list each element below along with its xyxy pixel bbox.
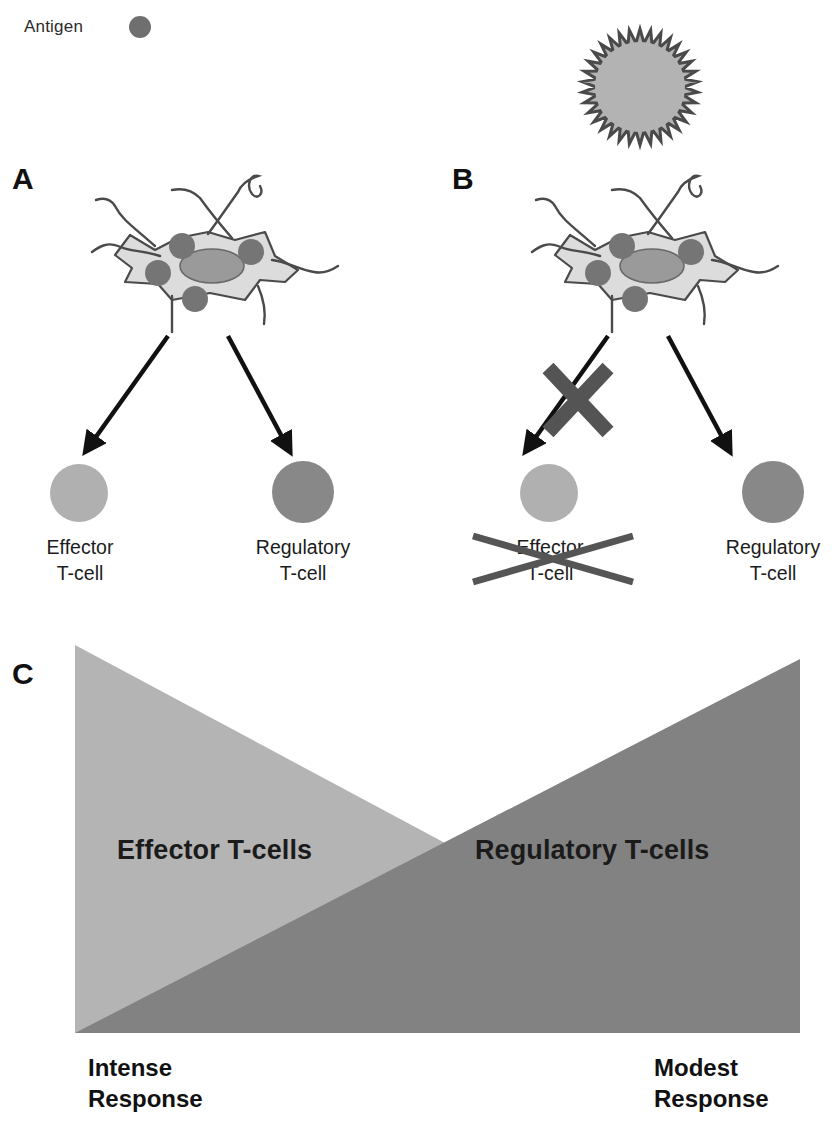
modest-response-label: Modest Response xyxy=(654,1052,769,1114)
spiky-antigen-particle xyxy=(575,22,705,156)
regulatory-label-line1: Regulatory xyxy=(223,534,383,560)
regulatory-label-line2: T-cell xyxy=(223,560,383,586)
antigen-legend-label: Antigen xyxy=(24,17,83,37)
panel-c-letter: C xyxy=(12,657,34,691)
modest-response-line1: Modest xyxy=(654,1052,769,1083)
antigen-dot-icon xyxy=(622,286,648,312)
regulatory-label-line2: T-cell xyxy=(693,560,835,586)
intense-response-line2: Response xyxy=(88,1083,203,1114)
modest-response-line2: Response xyxy=(654,1083,769,1114)
panel-a-regulatory-t-cell-label: Regulatory T-cell xyxy=(223,534,383,586)
effector-label-line1: Effector xyxy=(0,534,160,560)
arrow-down-right-icon xyxy=(228,336,288,448)
antigen-dot-icon xyxy=(145,260,171,286)
x-cross-icon xyxy=(467,528,639,590)
intense-response-line1: Intense xyxy=(88,1052,203,1083)
regulatory-t-cell-icon xyxy=(742,461,804,523)
panel-a-letter: A xyxy=(12,162,34,196)
effector-label-line2: T-cell xyxy=(0,560,160,586)
panel-b-letter: B xyxy=(452,162,474,196)
antigen-dot-icon xyxy=(169,233,195,259)
antigen-dot-icon xyxy=(678,239,704,265)
panel-a-dendritic-cell xyxy=(60,160,360,340)
panel-b-effector-t-cell xyxy=(520,464,578,522)
panel-b-dendritic-cell xyxy=(500,160,800,340)
effector-t-cell-icon xyxy=(50,464,108,522)
panel-b-effector-label-block xyxy=(467,528,639,594)
panel-b-regulatory-t-cell xyxy=(742,461,804,523)
regulatory-t-cells-label: Regulatory T-cells xyxy=(475,835,709,866)
antigen-dot-icon xyxy=(585,260,611,286)
panel-a-regulatory-t-cell xyxy=(272,461,334,523)
regulatory-label-line1: Regulatory xyxy=(693,534,835,560)
intense-response-label: Intense Response xyxy=(88,1052,203,1114)
dendritic-cell-icon xyxy=(60,160,360,340)
panel-b-regulatory-t-cell-label: Regulatory T-cell xyxy=(693,534,835,586)
panel-b-arrow-block xyxy=(538,360,618,444)
panel-a-effector-t-cell xyxy=(50,464,108,522)
panel-a-effector-t-cell-label: Effector T-cell xyxy=(0,534,160,586)
antigen-dot-icon xyxy=(609,233,635,259)
panel-c-crossing-triangles-chart: Effector T-cells Regulatory T-cells xyxy=(75,645,800,1033)
antigen-legend: Antigen xyxy=(24,16,151,38)
effector-t-cell-icon xyxy=(520,464,578,522)
arrow-down-right-icon xyxy=(668,336,728,448)
arrow-down-left-icon xyxy=(88,336,168,448)
dendritic-cell-icon xyxy=(500,160,800,340)
regulatory-t-cell-icon xyxy=(272,461,334,523)
x-cross-icon xyxy=(538,360,618,440)
effector-t-cells-label: Effector T-cells xyxy=(117,835,312,866)
antigen-dot-icon xyxy=(182,286,208,312)
panel-a-arrows xyxy=(50,330,390,464)
antigen-dot-icon xyxy=(238,239,264,265)
antigen-dot-icon xyxy=(129,16,151,38)
spiky-antigen-particle-icon xyxy=(575,22,705,152)
